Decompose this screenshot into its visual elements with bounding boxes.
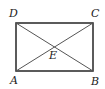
rectangle-diagram: D C A B E <box>0 0 105 89</box>
vertex-label-a: A <box>9 74 18 87</box>
intersection-label-e: E <box>48 49 57 62</box>
vertex-label-d: D <box>8 7 18 20</box>
vertex-label-c: C <box>91 7 100 20</box>
vertex-label-b: B <box>90 75 99 88</box>
